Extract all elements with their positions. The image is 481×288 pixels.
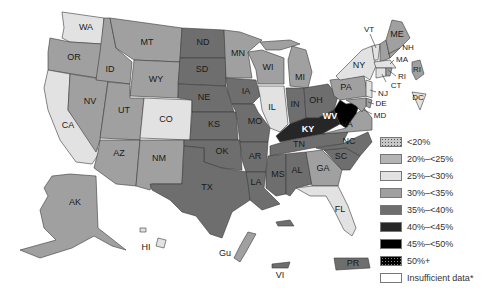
- label-sd: SD: [196, 64, 209, 74]
- swatch-20-25: [380, 154, 402, 164]
- label-wi: WI: [263, 62, 274, 72]
- swatch-30-35: [380, 188, 402, 198]
- state-nj: [366, 80, 372, 98]
- label-mo: MO: [248, 116, 263, 126]
- swatch-50-plus: [380, 256, 402, 266]
- state-ct: [376, 68, 386, 78]
- label-al: AL: [291, 165, 302, 175]
- label-ak: AK: [69, 197, 81, 207]
- swatch-25-30: [380, 171, 402, 181]
- label-ia: IA: [242, 86, 251, 96]
- legend-label: 20%–<25%: [407, 154, 453, 164]
- legend-label: 30%–<35%: [407, 188, 453, 198]
- label-ca: CA: [62, 120, 75, 130]
- cuba: [276, 220, 294, 226]
- legend-item-30-35: 30%–<35%: [380, 184, 480, 201]
- legend-label: 35%–<40%: [407, 205, 453, 215]
- label-fl: FL: [335, 204, 346, 214]
- swatch-40-45: [380, 222, 402, 232]
- label-ct: CT: [391, 81, 402, 90]
- label-hi: HI: [142, 242, 151, 252]
- legend-item-35-40: 35%–<40%: [380, 201, 480, 218]
- label-ar: AR: [249, 151, 262, 161]
- legend-item-25-30: 25%–<30%: [380, 167, 480, 184]
- label-ma: MA: [396, 55, 409, 64]
- label-inset-ri: RI: [413, 65, 421, 74]
- label-md: MD: [374, 111, 387, 120]
- label-sc: SC: [335, 151, 348, 161]
- legend-label: 25%–<30%: [407, 171, 453, 181]
- legend-item-lt20: <20%: [380, 133, 480, 150]
- label-nc: NC: [343, 136, 356, 146]
- legend-item-insufficient: Insufficient data*: [380, 269, 480, 286]
- legend: <20% 20%–<25% 25%–<30% 30%–<35% 35%–<40%…: [380, 133, 480, 286]
- label-mn: MN: [231, 48, 245, 58]
- label-me: ME: [390, 29, 404, 39]
- label-il: IL: [268, 102, 276, 112]
- label-mt: MT: [141, 37, 154, 47]
- label-gu: Gu: [219, 248, 231, 258]
- swatch-35-40: [380, 205, 402, 215]
- label-va: VA: [341, 119, 352, 129]
- legend-label: <20%: [407, 137, 430, 147]
- state-hi: [156, 238, 166, 248]
- label-wa: WA: [79, 22, 93, 32]
- territory-gu: [234, 232, 256, 262]
- legend-label: 40%–<45%: [407, 222, 453, 232]
- label-ne: NE: [198, 92, 211, 102]
- label-nv: NV: [84, 96, 97, 106]
- label-ri: RI: [398, 72, 406, 81]
- label-nm: NM: [152, 153, 166, 163]
- label-ny: NY: [353, 60, 366, 70]
- state-ak: [20, 174, 126, 258]
- territory-vi: [272, 262, 290, 268]
- swatch-45-50: [380, 239, 402, 249]
- label-vt: VT: [364, 25, 374, 34]
- swatch-insufficient: [380, 273, 402, 283]
- state-fl: [296, 186, 356, 236]
- label-in: IN: [291, 99, 300, 109]
- label-id: ID: [106, 64, 116, 74]
- label-tn: TN: [293, 139, 305, 149]
- state-az: [94, 140, 140, 186]
- label-nd: ND: [197, 37, 210, 47]
- label-ky: KY: [302, 124, 315, 134]
- label-az: AZ: [113, 148, 125, 158]
- label-ok: OK: [215, 146, 228, 156]
- label-ks: KS: [208, 119, 220, 129]
- state-hi-2: [140, 228, 146, 232]
- label-oh: OH: [309, 95, 323, 105]
- legend-item-50-plus: 50%+: [380, 252, 480, 269]
- label-ga: GA: [316, 163, 329, 173]
- label-mi: MI: [295, 72, 305, 82]
- legend-label: 50%+: [407, 256, 430, 266]
- label-tx: TX: [201, 182, 213, 192]
- state-nm: [136, 140, 184, 190]
- label-ms: MS: [271, 169, 285, 179]
- label-wy: WY: [149, 74, 164, 84]
- label-la: LA: [250, 177, 261, 187]
- legend-label: Insufficient data*: [407, 273, 473, 283]
- legend-item-20-25: 20%–<25%: [380, 150, 480, 167]
- label-pa: PA: [340, 82, 351, 92]
- swatch-lt20: [380, 137, 402, 147]
- label-pr: PR: [347, 258, 360, 268]
- legend-item-40-45: 40%–<45%: [380, 218, 480, 235]
- label-de: DE: [375, 99, 386, 108]
- legend-label: 45%–<50%: [407, 239, 453, 249]
- label-co: CO: [159, 114, 173, 124]
- label-ut: UT: [118, 105, 130, 115]
- label-or: OR: [67, 52, 81, 62]
- label-vi: VI: [276, 270, 285, 280]
- label-nj: NJ: [378, 89, 388, 98]
- label-wv: WV: [323, 111, 338, 121]
- label-dc: DC: [412, 93, 424, 102]
- legend-item-45-50: 45%–<50%: [380, 235, 480, 252]
- label-nh: NH: [402, 43, 414, 52]
